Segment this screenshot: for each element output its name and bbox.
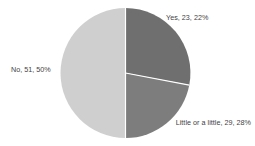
- pie-label-little: Little or a little, 29, 28%: [170, 119, 251, 128]
- pie-slice-no[interactable]: [61, 8, 126, 138]
- pie-chart: Yes, 23, 22% No, 51, 50% Little or a lit…: [0, 0, 255, 146]
- pie-label-no: No, 51, 50%: [11, 66, 51, 75]
- pie-label-little-line2: 28%: [237, 118, 251, 127]
- pie-label-little-line1: Little or a little, 29,: [176, 118, 235, 127]
- pie-label-yes: Yes, 23, 22%: [166, 14, 208, 23]
